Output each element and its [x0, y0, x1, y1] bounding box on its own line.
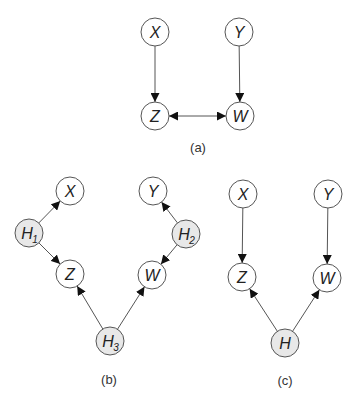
node-y: Y	[139, 177, 167, 205]
panel-a: XYZW(a)	[141, 18, 254, 155]
edge-h2-y	[162, 202, 178, 223]
panel-caption-a: (a)	[190, 140, 206, 155]
edge-h3-w	[118, 287, 145, 329]
node-label: H	[279, 335, 291, 352]
edge-h1-x	[39, 201, 60, 223]
node-h2: H2	[172, 220, 200, 248]
node-x: X	[141, 18, 169, 46]
node-h: H	[271, 329, 299, 357]
node-h3: H3	[96, 327, 124, 355]
edge-x-z	[242, 208, 243, 263]
causal-graph-figure: XYZW(a)XYH1H2ZWH3(b)XYZWH(c)	[0, 0, 364, 404]
panel-caption-b: (b)	[101, 372, 117, 387]
node-label: W	[144, 267, 161, 284]
node-w: W	[226, 102, 254, 130]
node-label: Z	[236, 269, 248, 286]
node-label: X	[149, 24, 162, 41]
edge-y-w	[239, 46, 240, 102]
edge-h1-z	[39, 243, 60, 264]
panel-c: XYZWH(c)	[228, 180, 342, 388]
node-label: X	[64, 183, 77, 200]
node-label: W	[319, 270, 336, 287]
node-subscript: 2	[188, 235, 195, 246]
node-z: Z	[56, 260, 84, 288]
node-h1: H1	[15, 219, 43, 247]
edge-h-w	[293, 290, 320, 331]
edge-h3-z	[77, 286, 103, 329]
node-x: X	[229, 180, 257, 208]
panel-b: XYH1H2ZWH3(b)	[15, 177, 200, 387]
node-label: Y	[148, 183, 160, 200]
node-x: X	[56, 177, 84, 205]
edge-h-z	[250, 289, 278, 332]
node-y: Y	[314, 180, 342, 208]
node-w: W	[313, 264, 341, 292]
node-subscript: 1	[32, 234, 38, 245]
node-label: Z	[149, 108, 161, 125]
node-z: Z	[228, 263, 256, 291]
edge-y-w	[327, 208, 328, 264]
node-label: X	[237, 186, 250, 203]
node-label: W	[232, 108, 249, 125]
node-label: Y	[234, 24, 246, 41]
node-subscript: 3	[113, 342, 119, 353]
node-w: W	[138, 261, 166, 289]
edge-h2-w	[161, 245, 177, 264]
node-z: Z	[141, 102, 169, 130]
panel-caption-c: (c)	[277, 373, 292, 388]
node-label: Z	[64, 266, 76, 283]
node-label: Y	[323, 186, 335, 203]
node-y: Y	[225, 18, 253, 46]
